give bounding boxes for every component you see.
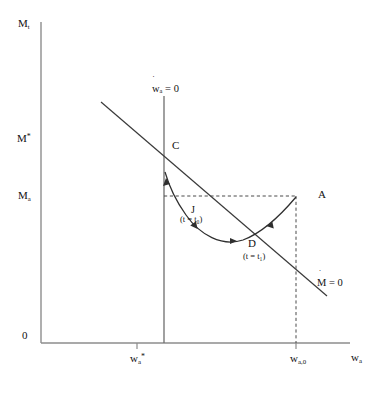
x-tick-label-w-a-star: wa*	[130, 353, 145, 365]
mdot-zero-isocline-label: ̇M = 0	[317, 278, 343, 289]
wdot-zero-isocline-label: ̇wa = 0	[152, 84, 179, 95]
diagram-canvas	[0, 0, 390, 398]
y-axis-title: Mt	[18, 18, 30, 30]
figure-caption	[0, 381, 390, 398]
mdot-zero-isocline	[101, 102, 327, 296]
y-tick-label-m-star: M*	[17, 133, 31, 144]
phase-diagram-figure: Mt M* Ma 0 wa* wa,0 wa ̇wa = 0 ̇M = 0 C …	[0, 0, 390, 398]
point-label-c: C	[172, 140, 179, 151]
point-label-d: D	[248, 238, 256, 249]
annotation-t0: (t = t₀)	[180, 215, 202, 224]
y-tick-label-m-a: Ma	[18, 190, 31, 202]
origin-label: 0	[22, 330, 28, 341]
point-label-a: A	[318, 189, 326, 200]
saddle-path-trajectory	[165, 172, 296, 242]
annotation-t1: (t = t₁)	[243, 252, 265, 261]
trajectory-arrow-1	[265, 222, 273, 230]
x-axis-title: wa	[351, 352, 362, 364]
x-tick-label-w-a-0: wa,0	[290, 353, 306, 365]
trajectory-arrow-2	[230, 238, 237, 244]
